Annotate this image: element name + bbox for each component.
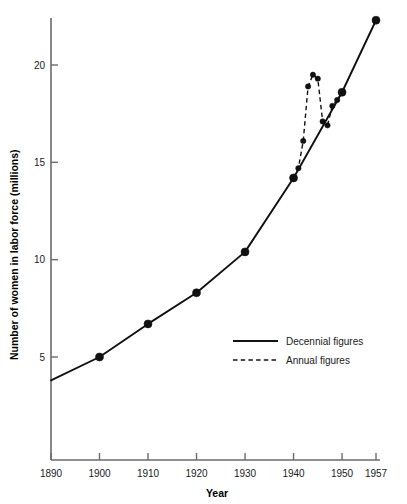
legend-label-decennial: Decennial figures: [286, 336, 363, 347]
y-tick-label: 10: [34, 254, 46, 265]
y-tick-label: 20: [34, 60, 46, 71]
data-point-decennial: [144, 320, 152, 328]
data-point-decennial: [241, 248, 249, 256]
x-tick-label: 1910: [137, 468, 160, 479]
legend-label-annual: Annual figures: [286, 355, 350, 366]
x-tick-label: 1957: [365, 468, 388, 479]
data-point-annual: [301, 138, 306, 143]
chart-legend: Decennial figures Annual figures: [233, 336, 363, 366]
data-point-decennial: [96, 353, 104, 361]
data-point-annual: [334, 97, 339, 102]
data-point-annual: [296, 165, 301, 170]
data-point-annual: [305, 84, 310, 89]
chart-container: Number of women in labor force (millions…: [0, 0, 407, 504]
y-tick-label: 5: [39, 352, 45, 363]
data-point-annual: [310, 72, 315, 77]
x-axis-ticks: 18901900191019201930194019501957: [40, 453, 388, 479]
x-tick-label: 1930: [234, 468, 257, 479]
x-axis-title: Year: [206, 487, 228, 499]
data-point-annual: [330, 103, 335, 108]
x-tick-label: 1900: [88, 468, 111, 479]
x-tick-label: 1890: [40, 468, 63, 479]
data-point-decennial: [338, 88, 346, 96]
series-annual-line: [294, 75, 343, 178]
series-decennial-markers: [96, 16, 380, 361]
line-chart: Number of women in labor force (millions…: [0, 0, 407, 504]
series-annual-markers: [291, 72, 345, 181]
x-tick-label: 1920: [185, 468, 208, 479]
x-tick-label: 1950: [331, 468, 354, 479]
y-tick-label: 15: [34, 157, 46, 168]
data-point-annual: [325, 123, 330, 128]
series-decennial-line: [51, 20, 376, 380]
y-axis-title: Number of women in labor force (millions…: [8, 149, 20, 360]
x-tick-label: 1940: [282, 468, 305, 479]
data-point-annual: [315, 76, 320, 81]
y-axis-ticks: 5101520: [34, 60, 58, 363]
data-point-annual: [320, 119, 325, 124]
data-point-decennial: [372, 16, 380, 24]
data-point-decennial: [193, 289, 201, 297]
data-point-decennial: [290, 174, 298, 182]
